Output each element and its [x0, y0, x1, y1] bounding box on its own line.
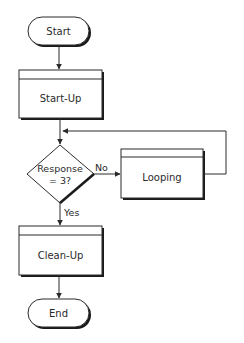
end-terminal: End: [28, 299, 91, 329]
decision-label-line1: Response: [37, 163, 83, 174]
start-terminal: Start: [28, 17, 91, 47]
end-label: End: [49, 308, 68, 319]
decision-diamond: Response = 3?: [27, 145, 94, 203]
decision-label-line2: = 3?: [49, 175, 71, 186]
yes-label: Yes: [63, 207, 79, 218]
flowchart-canvas: Start Start-Up Response = 3? No Looping …: [0, 0, 244, 343]
looping-process-box: Looping: [121, 149, 205, 200]
cleanup-label: Clean-Up: [38, 250, 84, 261]
startup-label: Start-Up: [40, 93, 82, 104]
looping-label: Looping: [142, 172, 181, 183]
no-label: No: [95, 162, 108, 173]
cleanup-process-box: Clean-Up: [19, 226, 104, 277]
startup-process-box: Start-Up: [19, 70, 104, 120]
start-label: Start: [46, 26, 71, 37]
